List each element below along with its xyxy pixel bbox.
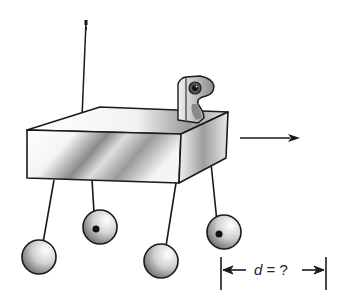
distance-variable: d bbox=[254, 261, 262, 278]
equals-sign: = bbox=[267, 261, 276, 278]
distance-label: d = ? bbox=[254, 261, 288, 278]
rover-diagram: d = ? bbox=[0, 0, 349, 301]
unknown-value: ? bbox=[279, 261, 287, 278]
antenna bbox=[82, 20, 88, 117]
velocity-arrow bbox=[240, 134, 300, 142]
diagram-drawing bbox=[0, 0, 349, 301]
rear-wheels bbox=[83, 210, 241, 249]
front-wheels bbox=[22, 240, 178, 278]
